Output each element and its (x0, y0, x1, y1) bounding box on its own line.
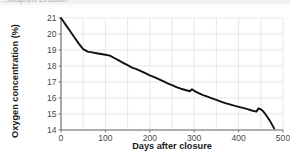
x-axis (61, 130, 283, 133)
data-series-oxygen (61, 18, 274, 128)
y-tick-label: 17 (47, 77, 57, 87)
y-tick-label: 14 (47, 125, 57, 135)
grid-lines (61, 18, 283, 130)
y-axis-title: Oxygen concentration (%) (10, 24, 20, 138)
y-tick-label: 19 (47, 45, 57, 55)
caption-strip: ...mosphere Emission: (0, 0, 290, 9)
chart-canvas: 1415161718192021 0100200300400500 Oxygen… (0, 9, 290, 155)
oxygen-concentration-chart: 1415161718192021 0100200300400500 Oxygen… (0, 9, 290, 155)
y-tick-label: 15 (47, 109, 57, 119)
y-tick-labels: 1415161718192021 (47, 13, 57, 135)
x-axis-title: Days after closure (132, 141, 212, 151)
y-tick-label: 21 (47, 13, 57, 23)
x-tick-label: 0 (59, 133, 64, 143)
x-tick-label: 500 (276, 133, 290, 143)
x-tick-label: 400 (231, 133, 246, 143)
x-tick-label: 100 (98, 133, 113, 143)
y-axis (59, 18, 62, 130)
figure-screenshot: ...mosphere Emission: 1415161718192021 0… (0, 0, 290, 155)
series-line-oxygen (61, 18, 274, 128)
y-tick-label: 18 (47, 61, 57, 71)
y-tick-label: 16 (47, 93, 57, 103)
y-tick-label: 20 (47, 29, 57, 39)
